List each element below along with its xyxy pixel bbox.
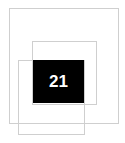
tile-number: 21 xyxy=(49,72,68,92)
number-tile[interactable]: 21 xyxy=(33,60,84,103)
